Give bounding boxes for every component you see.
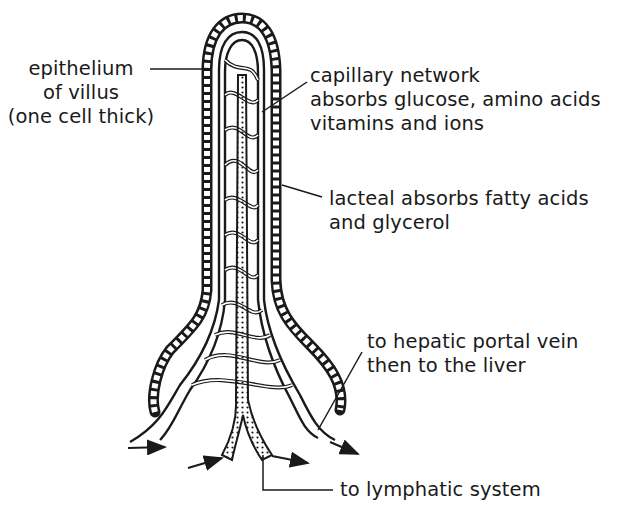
leader-capillary [262, 82, 307, 112]
leader-lacteal [282, 185, 322, 197]
label-lacteal: lacteal absorbs fatty acids and glycerol [329, 187, 589, 235]
label-lymphatic-system: to lymphatic system [340, 478, 541, 502]
label-capillary-network: capillary network absorbs glucose, amino… [310, 64, 601, 136]
flow-arrows [128, 442, 358, 468]
label-epithelium: epithelium of villus (one cell thick) [6, 57, 156, 129]
label-hepatic-portal-vein: to hepatic portal vein then to the liver [367, 330, 579, 378]
